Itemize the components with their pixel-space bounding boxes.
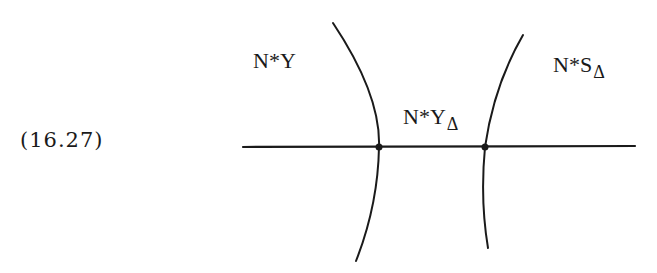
left-curve — [333, 23, 379, 261]
label-middle-sub: Δ — [447, 114, 459, 134]
label-right-sub: Δ — [593, 62, 605, 82]
right-intersection-point — [482, 144, 489, 151]
label-right-region: N*SΔ — [553, 54, 605, 76]
label-left-region: N*Y — [253, 50, 296, 72]
horizontal-line — [243, 146, 635, 147]
equation-number: (16.27) — [20, 128, 104, 152]
left-intersection-point — [376, 144, 383, 151]
label-left-main: N*Y — [253, 48, 296, 73]
label-right-main: N*S — [553, 52, 592, 77]
label-middle-main: N*Y — [403, 104, 446, 129]
label-middle-region: N*YΔ — [403, 106, 458, 128]
right-curve — [483, 35, 523, 248]
